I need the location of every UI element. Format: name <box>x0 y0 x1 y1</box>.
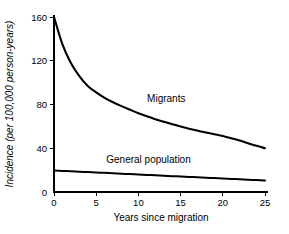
y-tick-label-120: 120 <box>31 55 47 66</box>
y-tick-label-40: 40 <box>36 143 47 154</box>
series-line-general-population <box>54 170 265 180</box>
y-axis-title: Incidence (per 100,000 person-years) <box>4 21 15 188</box>
incidence-line-chart: Incidence (per 100,000 person-years) 160… <box>0 0 289 234</box>
x-tick-label-10: 10 <box>133 197 144 208</box>
series-line-migrants <box>54 17 265 148</box>
y-tick-label-0: 0 <box>42 187 47 198</box>
chart-figure: Incidence (per 100,000 person-years) 160… <box>0 0 289 234</box>
x-tick-label-5: 5 <box>94 197 99 208</box>
x-tick-label-20: 20 <box>218 197 229 208</box>
y-axis-tick-labels: 160 120 80 40 0 <box>31 12 47 198</box>
x-axis-title: Years since migration <box>113 212 208 223</box>
y-tick-label-80: 80 <box>36 99 47 110</box>
x-tick-label-15: 15 <box>175 197 186 208</box>
y-axis-tick-marks <box>50 17 54 148</box>
x-tick-label-0: 0 <box>51 197 56 208</box>
y-tick-label-160: 160 <box>31 12 47 23</box>
x-tick-label-25: 25 <box>260 197 271 208</box>
x-axis-tick-marks <box>54 192 265 196</box>
x-axis-tick-labels: 0 5 10 15 20 25 <box>51 197 270 208</box>
series-label-general-population: General population <box>106 154 191 165</box>
series-label-migrants: Migrants <box>147 93 185 104</box>
